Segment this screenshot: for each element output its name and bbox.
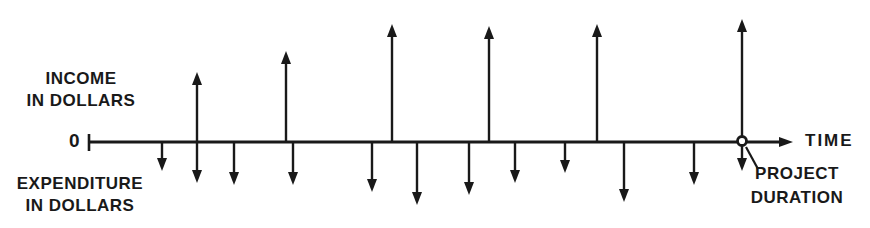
income-axis-label-line1: INCOME: [6, 68, 156, 90]
origin-label: 0: [69, 131, 80, 150]
expenditure-arrowhead: [560, 160, 570, 173]
expenditure-arrowhead: [510, 170, 520, 183]
time-axis-arrowhead: [779, 137, 793, 147]
income-arrowhead: [192, 72, 202, 85]
income-axis-label-line2: IN DOLLARS: [6, 90, 156, 112]
income-arrowhead: [387, 24, 397, 37]
expenditure-arrowhead: [229, 172, 239, 185]
project-duration-label-line2: DURATION: [736, 186, 858, 210]
expenditure-arrowhead: [192, 170, 202, 183]
expenditure-arrowhead: [367, 179, 377, 192]
cash-flow-figure: INCOME IN DOLLARS 0 EXPENDITURE IN DOLLA…: [0, 0, 870, 228]
expenditure-arrowhead: [619, 189, 629, 202]
expenditure-arrowhead: [157, 158, 167, 171]
expenditure-arrowhead: [464, 182, 474, 195]
project-end-marker: [738, 137, 747, 146]
income-arrowhead: [737, 19, 747, 32]
income-arrowhead: [592, 24, 602, 37]
income-arrowhead: [281, 51, 291, 64]
expenditure-axis-label: EXPENDITURE IN DOLLARS: [0, 173, 160, 217]
expenditure-arrowhead: [288, 172, 298, 185]
expenditure-axis-label-line1: EXPENDITURE: [0, 173, 160, 195]
time-axis-label: TIME: [805, 132, 854, 149]
income-axis-label: INCOME IN DOLLARS: [6, 68, 156, 112]
expenditure-axis-label-line2: IN DOLLARS: [0, 195, 160, 217]
project-duration-label-line1: PROJECT: [736, 162, 858, 186]
expenditure-arrowhead: [412, 192, 422, 205]
expenditure-arrowhead: [689, 172, 699, 185]
income-arrowhead: [484, 26, 494, 39]
project-duration-label: PROJECT DURATION: [736, 162, 858, 210]
